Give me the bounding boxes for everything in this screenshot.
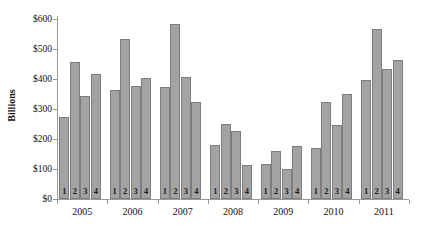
y-axis-tick-mark <box>53 49 57 50</box>
bar-quarter-label: 1 <box>312 187 320 196</box>
bar[interactable]: 1 <box>110 90 120 199</box>
bar-quarter-label: 3 <box>182 187 190 196</box>
x-axis-group-tick <box>208 200 209 204</box>
y-axis-tick-labels: $0$100$200$300$400$500$600 <box>20 12 54 202</box>
x-axis-group-label: 2005 <box>72 206 92 217</box>
bar-chart: Billions $0$100$200$300$400$500$600 1234… <box>0 0 422 236</box>
bar[interactable]: 3 <box>282 169 292 199</box>
bar-quarter-label: 2 <box>121 187 129 196</box>
y-axis-title: Billions <box>0 0 22 210</box>
bar[interactable]: 2 <box>70 62 80 199</box>
bar-quarter-label: 4 <box>192 187 200 196</box>
bar[interactable]: 3 <box>131 86 141 199</box>
bar-quarter-label: 1 <box>211 187 219 196</box>
y-axis-tick-mark <box>53 109 57 110</box>
bar-quarter-label: 1 <box>262 187 270 196</box>
bar-quarter-label: 4 <box>243 187 251 196</box>
y-axis-tick-label: $600 <box>33 14 52 24</box>
x-axis-group-label: 2011 <box>374 206 394 217</box>
bar[interactable]: 4 <box>342 94 352 199</box>
x-axis-group-tick <box>308 200 309 204</box>
bar[interactable]: 4 <box>91 74 101 199</box>
bar-quarter-label: 2 <box>272 187 280 196</box>
bar[interactable]: 1 <box>311 148 321 199</box>
bar[interactable]: 1 <box>160 87 170 199</box>
bar[interactable]: 2 <box>170 24 180 199</box>
bar-quarter-label: 1 <box>161 187 169 196</box>
bar-quarter-label: 3 <box>283 187 291 196</box>
bar[interactable]: 4 <box>393 60 403 200</box>
plot-area: 1234123412341234123412341234 <box>57 19 409 199</box>
bar[interactable]: 3 <box>382 69 392 199</box>
bar-quarter-label: 2 <box>222 187 230 196</box>
bar[interactable]: 3 <box>231 131 241 199</box>
bar-quarter-label: 4 <box>293 187 301 196</box>
bar-quarter-label: 2 <box>71 187 79 196</box>
x-axis-group-label: 2010 <box>324 206 344 217</box>
y-axis-tick-label: $100 <box>33 164 52 174</box>
x-axis-group-label: 2006 <box>122 206 142 217</box>
x-axis-group-tick <box>158 200 159 204</box>
bar-quarter-label: 4 <box>343 187 351 196</box>
y-axis-tick-label: $200 <box>33 134 52 144</box>
bar-quarter-label: 3 <box>81 187 89 196</box>
bar-quarter-label: 4 <box>394 187 402 196</box>
bar[interactable]: 2 <box>221 124 231 199</box>
bar[interactable]: 1 <box>210 145 220 199</box>
x-axis-group-tick <box>107 200 108 204</box>
x-axis-group-tick <box>359 200 360 204</box>
bar-quarter-label: 3 <box>333 187 341 196</box>
y-axis-tick-label: $500 <box>33 44 52 54</box>
bar-quarter-label: 4 <box>142 187 150 196</box>
bar[interactable]: 4 <box>292 146 302 199</box>
bar[interactable]: 4 <box>141 78 151 199</box>
bar[interactable]: 3 <box>181 77 191 199</box>
bar[interactable]: 2 <box>120 39 130 199</box>
bar[interactable]: 2 <box>372 29 382 199</box>
x-axis-group-label: 2007 <box>173 206 193 217</box>
x-axis-group-tick <box>409 200 410 204</box>
y-axis-tick-mark <box>53 19 57 20</box>
bar[interactable]: 4 <box>242 165 252 199</box>
bars-layer: 1234123412341234123412341234 <box>57 19 409 199</box>
bar-quarter-label: 2 <box>373 187 381 196</box>
bar-quarter-label: 3 <box>232 187 240 196</box>
y-axis-tick-mark <box>53 79 57 80</box>
bar-quarter-label: 4 <box>92 187 100 196</box>
x-axis-group-label: 2009 <box>273 206 293 217</box>
bar-quarter-label: 3 <box>132 187 140 196</box>
bar-quarter-label: 1 <box>362 187 370 196</box>
bar-quarter-label: 1 <box>60 187 68 196</box>
bar[interactable]: 2 <box>271 151 281 199</box>
y-axis-tick-mark <box>53 169 57 170</box>
bar[interactable]: 3 <box>332 125 342 199</box>
y-axis-tick-label: $400 <box>33 74 52 84</box>
y-axis-tick-label: $300 <box>33 104 52 114</box>
x-axis-group-tick <box>57 200 58 204</box>
x-axis-group-label: 2008 <box>223 206 243 217</box>
bar[interactable]: 4 <box>191 102 201 200</box>
x-axis-group-labels: 2005200620072008200920102011 <box>57 200 409 226</box>
bar[interactable]: 1 <box>261 164 271 199</box>
x-axis-group-tick <box>258 200 259 204</box>
bar[interactable]: 1 <box>361 80 371 199</box>
y-axis-tick-mark <box>53 139 57 140</box>
bar-quarter-label: 3 <box>383 187 391 196</box>
bar-quarter-label: 1 <box>111 187 119 196</box>
bar[interactable]: 1 <box>59 117 69 200</box>
bar-quarter-label: 2 <box>171 187 179 196</box>
y-axis-title-text: Billions <box>6 89 17 121</box>
y-axis-tick-label: $0 <box>43 194 53 204</box>
bar[interactable]: 2 <box>321 102 331 200</box>
bar-quarter-label: 2 <box>322 187 330 196</box>
bar[interactable]: 3 <box>80 96 90 199</box>
